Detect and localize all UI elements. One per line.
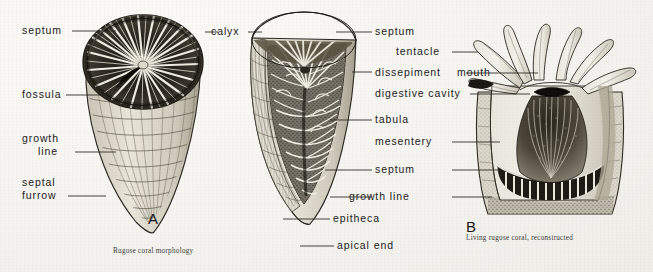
figure-letter-b: B <box>466 218 476 235</box>
figure-a-external-coral <box>83 15 203 233</box>
label-growth-line-left-2: line <box>38 146 58 158</box>
caption-figure-b: Living rugose coral, reconstructed <box>466 234 573 242</box>
figure-a-section-coral <box>251 12 356 225</box>
illustration-plate: septum fossula growth line septal furrow… <box>0 0 653 272</box>
label-mouth: mouth <box>457 67 491 79</box>
label-mesentery: mesentery <box>375 136 432 148</box>
figure-b-living-polyp <box>468 24 636 214</box>
label-fossula: fossula <box>22 89 62 101</box>
figure-letter-a: A <box>148 210 158 227</box>
caption-figure-a: Rugose coral morphology <box>113 247 193 255</box>
label-septum-lower-right: septum <box>375 164 415 176</box>
label-septal-furrow-1: septal <box>22 177 55 189</box>
label-epitheca: epitheca <box>333 213 380 225</box>
label-growth-line-right: growth line <box>349 191 410 203</box>
label-dissepiment: dissepiment <box>375 67 441 79</box>
label-septal-furrow-2: furrow <box>22 190 57 202</box>
label-growth-line-left-1: growth <box>22 133 59 145</box>
coral-illustration-artwork <box>0 0 653 272</box>
label-septum-upper-right: septum <box>375 26 415 38</box>
label-septum-left: septum <box>22 25 62 37</box>
label-tabula: tabula <box>375 114 409 126</box>
label-calyx: calyx <box>211 26 239 38</box>
label-digestive-cavity: digestive cavity <box>375 88 461 100</box>
label-tentacle: tentacle <box>396 46 440 58</box>
label-apical-end: apical end <box>337 240 394 252</box>
